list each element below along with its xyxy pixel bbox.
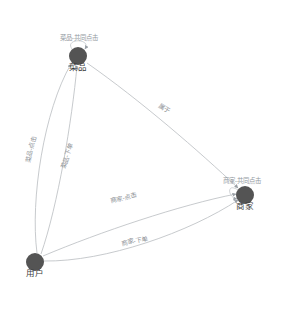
loop-label-dish-co-click: 菜品-共同点击: [60, 33, 98, 42]
node-merchant-label: 商家: [236, 201, 254, 211]
node-user[interactable]: 用户: [26, 253, 44, 278]
edge-label-group: 菜品-点击 菜品-下单 属于 商家-点击 商家-下单: [23, 102, 172, 248]
node-merchant[interactable]: 商家: [236, 186, 254, 211]
edge-label-belongs-to: 属于: [157, 102, 172, 116]
self-loop-group: [71, 41, 238, 199]
knowledge-graph-diagram: 菜品 用户 商家 菜品-点击 菜品-下单 属于 商家-点击 商家-下单 菜品-共…: [0, 0, 290, 309]
edge-label-dish-click: 菜品-点击: [23, 136, 38, 164]
node-dish[interactable]: 菜品: [69, 47, 87, 72]
edge-label-merchant-click: 商家-点击: [110, 190, 138, 205]
edge-label-merchant-order: 商家-下单: [121, 233, 150, 247]
node-dish-label: 菜品: [69, 62, 87, 72]
edge-merchant-click[interactable]: [43, 194, 236, 256]
edge-merchant-order[interactable]: [44, 200, 238, 261]
node-user-label: 用户: [26, 268, 44, 278]
edge-label-dish-order: 菜品-下单: [58, 141, 76, 170]
edge-belongs-to[interactable]: [87, 63, 238, 188]
edge-dish-order[interactable]: [41, 66, 77, 254]
loop-label-merchant-co-click: 商家-共同点击: [223, 176, 261, 185]
